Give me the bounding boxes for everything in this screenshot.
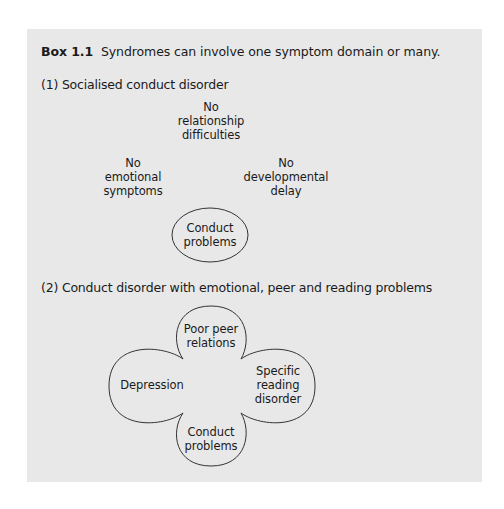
- lobe-conduct-problems: Conduct problems: [185, 425, 238, 453]
- node-conduct-problems: Conduct problems: [184, 221, 237, 249]
- diagram-shapes: [0, 0, 504, 509]
- lobe-poor-peer-relations: Poor peer relations: [184, 322, 238, 350]
- section-2-heading: (2) Conduct disorder with emotional, pee…: [41, 280, 432, 295]
- lobe-depression: Depression: [120, 378, 183, 392]
- lobe-specific-reading-disorder: Specific reading disorder: [255, 364, 301, 406]
